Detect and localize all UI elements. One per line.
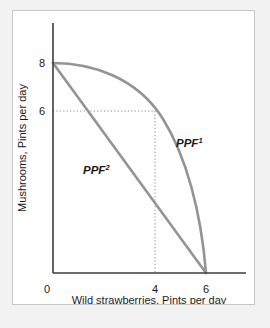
axes [53, 23, 246, 273]
series-label-ppf1-superscript: 1 [198, 136, 202, 145]
chart-panel: 8 6 0 4 6 PPF1 PPF2 Wild strawberries, P… [12, 10, 255, 305]
y-axis-title: Mushrooms, Pints per day [16, 84, 28, 212]
x-axis-title: Wild strawberries, Pints per day [72, 294, 227, 304]
y-tick-label-6: 6 [39, 105, 45, 117]
ppf-chart: 8 6 0 4 6 PPF1 PPF2 Wild strawberries, P… [13, 11, 254, 304]
series-label-ppf1: PPF1 [176, 136, 203, 150]
series-label-ppf2: PPF2 [83, 163, 110, 177]
x-tick-label-0: 0 [44, 283, 50, 295]
guide-lines [53, 111, 155, 273]
series-ppf2-line [53, 63, 206, 273]
figure-root: 8 6 0 4 6 PPF1 PPF2 Wild strawberries, P… [0, 0, 270, 328]
series-label-ppf1-text: PPF [176, 137, 199, 149]
series-label-ppf2-text: PPF [83, 164, 106, 176]
y-tick-label-8: 8 [39, 57, 45, 69]
series-label-ppf2-superscript: 2 [104, 163, 110, 172]
